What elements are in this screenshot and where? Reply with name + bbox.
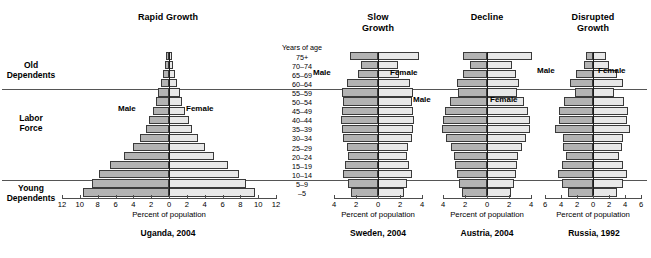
bar-male bbox=[348, 152, 378, 160]
x-axis-tick bbox=[240, 195, 241, 199]
x-axis-tick-label: 6 bbox=[543, 200, 547, 209]
bar-male bbox=[343, 134, 378, 142]
bar-female bbox=[378, 125, 413, 133]
age-group-label: 30–34 bbox=[276, 134, 328, 143]
bar-female bbox=[487, 152, 518, 160]
bar-female bbox=[378, 161, 409, 169]
bar-female bbox=[169, 107, 185, 115]
bar-male bbox=[358, 70, 378, 78]
bar-male bbox=[470, 61, 487, 69]
bar-female bbox=[593, 125, 630, 133]
pyramid-plot-uganda bbox=[62, 52, 276, 198]
x-axis-tick bbox=[133, 195, 134, 199]
panel-title-austria: Decline bbox=[447, 12, 527, 23]
bar-male bbox=[99, 170, 169, 178]
x-axis-tick bbox=[609, 195, 610, 199]
x-axis-tick bbox=[465, 195, 466, 199]
bar-female bbox=[593, 179, 623, 187]
bar-female bbox=[169, 143, 205, 151]
bar-male bbox=[351, 188, 379, 196]
x-axis-tick-label: 2 bbox=[185, 200, 189, 209]
x-axis-tick bbox=[545, 195, 546, 199]
panel-title-russia: Disrupted Growth bbox=[548, 12, 638, 34]
bar-female bbox=[487, 125, 530, 133]
x-axis-tick-label: 2 bbox=[149, 200, 153, 209]
panel-title-sweden: Slow Growth bbox=[338, 12, 418, 34]
bar-male bbox=[442, 125, 487, 133]
bar-male bbox=[563, 143, 593, 151]
panel-caption-uganda: Uganda, 2004 bbox=[98, 228, 238, 238]
x-axis-tick bbox=[593, 195, 594, 199]
bar-female bbox=[378, 107, 413, 115]
x-axis-tick bbox=[98, 195, 99, 199]
bar-female bbox=[593, 152, 619, 160]
side-label-old-dependents: Old Dependents bbox=[2, 60, 60, 80]
age-axis-column: Years of age75+70–7465–6960–6455–5950–54… bbox=[276, 43, 328, 198]
bar-female bbox=[169, 116, 189, 124]
bar-male bbox=[563, 134, 593, 142]
age-group-label: 10–14 bbox=[276, 171, 328, 180]
x-axis-tick-label: 0 bbox=[376, 200, 380, 209]
bar-male bbox=[555, 125, 593, 133]
x-axis-tick-label: 12 bbox=[272, 200, 280, 209]
x-axis-tick bbox=[276, 195, 277, 199]
bar-female bbox=[378, 179, 407, 187]
bar-female bbox=[487, 116, 530, 124]
bar-male bbox=[83, 188, 169, 196]
bar-female bbox=[487, 143, 522, 151]
bar-male bbox=[562, 179, 593, 187]
bar-female bbox=[487, 179, 514, 187]
bar-female bbox=[593, 88, 614, 96]
bar-female bbox=[169, 188, 255, 196]
bar-female bbox=[378, 79, 410, 87]
bar-female bbox=[378, 116, 414, 124]
x-axis-tick-label: 4 bbox=[332, 200, 336, 209]
x-axis-tick-label: 0 bbox=[591, 200, 595, 209]
age-group-label: 60–64 bbox=[276, 80, 328, 89]
side-label-young-dependents: Young Dependents bbox=[2, 183, 60, 203]
x-axis-tick-label: 12 bbox=[58, 200, 66, 209]
bar-male bbox=[445, 107, 487, 115]
age-group-label: 20–24 bbox=[276, 153, 328, 162]
bar-male bbox=[158, 88, 169, 96]
panel-caption-austria: Austria, 2004 bbox=[442, 228, 532, 238]
x-axis-tick bbox=[62, 195, 63, 199]
x-axis-tick-label: 4 bbox=[623, 200, 627, 209]
bar-male bbox=[342, 107, 378, 115]
bar-male bbox=[570, 79, 593, 87]
bar-male bbox=[457, 170, 487, 178]
bar-male bbox=[140, 134, 169, 142]
legend-label-female-sweden: Female bbox=[390, 68, 418, 77]
bar-male bbox=[446, 134, 487, 142]
x-axis-tick bbox=[641, 195, 642, 199]
x-axis-tick bbox=[151, 195, 152, 199]
bar-male bbox=[146, 125, 169, 133]
center-axis-line bbox=[169, 52, 170, 198]
bar-male bbox=[341, 116, 378, 124]
bar-male bbox=[562, 161, 593, 169]
age-group-label: 45–49 bbox=[276, 107, 328, 116]
bar-male bbox=[457, 79, 487, 87]
bar-female bbox=[378, 170, 412, 178]
legend-label-male-sweden: Male bbox=[313, 68, 331, 77]
bar-male bbox=[459, 179, 487, 187]
bar-female bbox=[378, 97, 412, 105]
bar-male bbox=[348, 179, 378, 187]
bar-male bbox=[92, 179, 169, 187]
bar-male bbox=[343, 170, 378, 178]
bar-female bbox=[593, 188, 617, 196]
x-axis-tick-label: 4 bbox=[559, 200, 563, 209]
age-group-label: 5–9 bbox=[276, 180, 328, 189]
bar-male bbox=[361, 61, 378, 69]
x-axis-tick bbox=[169, 195, 170, 199]
bar-female bbox=[169, 179, 246, 187]
legend-label-male-russia: Male bbox=[537, 66, 555, 75]
age-axis-header: Years of age bbox=[276, 43, 328, 53]
x-axis-tick bbox=[487, 195, 488, 199]
x-axis-tick-label: 2 bbox=[398, 200, 402, 209]
bar-male bbox=[347, 79, 378, 87]
x-axis-tick bbox=[334, 195, 335, 199]
bar-male bbox=[463, 52, 487, 60]
x-axis-tick bbox=[443, 195, 444, 199]
bar-female bbox=[593, 79, 623, 87]
